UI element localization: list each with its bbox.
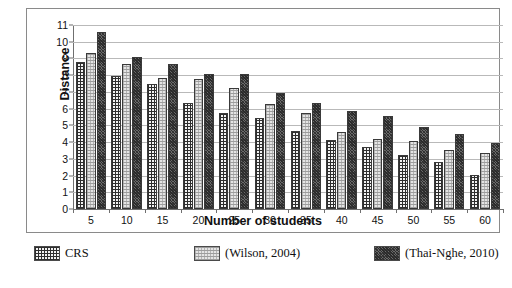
legend-item: (Wilson, 2004) xyxy=(194,246,300,261)
bar-group xyxy=(73,25,109,209)
y-tick-label: 0 xyxy=(62,204,68,215)
bar xyxy=(470,175,480,209)
bar xyxy=(255,118,265,209)
bar xyxy=(326,140,336,209)
x-tick-mark xyxy=(252,209,253,213)
y-tick-label: 4 xyxy=(62,137,68,148)
legend-item: (Thai-Nghe, 2010) xyxy=(374,246,499,261)
bar-group xyxy=(181,25,217,209)
bar xyxy=(419,127,429,209)
y-tick-label: 10 xyxy=(56,36,68,47)
bar-group xyxy=(396,25,432,209)
bar-group xyxy=(145,25,181,209)
bar xyxy=(76,62,86,209)
bar xyxy=(240,74,250,209)
bar-group xyxy=(288,25,324,209)
bar xyxy=(111,76,121,209)
bar xyxy=(86,53,96,209)
bar xyxy=(219,113,229,209)
bar xyxy=(291,131,301,209)
plot-area: 01234567891011 51015202530354045505560 xyxy=(73,25,503,209)
bar xyxy=(337,132,347,209)
legend-label: (Thai-Nghe, 2010) xyxy=(405,246,499,261)
bar-series-container xyxy=(73,25,503,209)
bar xyxy=(97,32,107,209)
y-tick-label: 8 xyxy=(62,70,68,81)
bar-group xyxy=(324,25,360,209)
y-tick-label: 1 xyxy=(62,187,68,198)
x-tick-mark xyxy=(396,209,397,213)
bar xyxy=(301,113,311,209)
bar xyxy=(491,143,501,209)
bar xyxy=(347,111,357,209)
bar xyxy=(122,64,132,209)
bar xyxy=(444,150,454,209)
bar-group xyxy=(431,25,467,209)
legend-swatch xyxy=(34,246,60,261)
x-tick-mark xyxy=(109,209,110,213)
legend-label: CRS xyxy=(65,246,89,261)
x-tick-mark xyxy=(431,209,432,213)
bar-group xyxy=(109,25,145,209)
bar-group xyxy=(360,25,396,209)
bar xyxy=(168,64,178,209)
x-tick-mark xyxy=(288,209,289,213)
x-tick-mark xyxy=(73,209,74,213)
legend-item: CRS xyxy=(34,246,89,261)
bar xyxy=(183,103,193,209)
y-tick-label: 7 xyxy=(62,87,68,98)
bar xyxy=(373,139,383,209)
bar-group xyxy=(467,25,503,209)
bar xyxy=(147,84,157,209)
bar xyxy=(276,93,286,209)
x-tick-mark xyxy=(324,209,325,213)
y-tick-label: 3 xyxy=(62,154,68,165)
y-tick-label: 2 xyxy=(62,170,68,181)
bar xyxy=(455,134,465,209)
x-tick-mark xyxy=(216,209,217,213)
y-tick-label: 11 xyxy=(57,20,68,31)
legend-swatch xyxy=(374,246,400,261)
bar xyxy=(229,88,239,209)
y-tick-label: 5 xyxy=(62,120,68,131)
bar xyxy=(362,147,372,209)
bar xyxy=(383,116,393,209)
x-tick-mark xyxy=(467,209,468,213)
bar xyxy=(265,104,275,209)
chart-legend: CRS(Wilson, 2004)(Thai-Nghe, 2010) xyxy=(26,246,500,278)
bar-group xyxy=(252,25,288,209)
bar xyxy=(204,74,214,209)
bar xyxy=(434,162,444,209)
x-tick-mark xyxy=(181,209,182,213)
x-tick-mark xyxy=(360,209,361,213)
x-tick-mark xyxy=(145,209,146,213)
bar xyxy=(398,155,408,209)
plot-frame: Distance 01234567891011 5101520253035404… xyxy=(26,8,500,233)
chart-figure: Distance 01234567891011 5101520253035404… xyxy=(0,0,512,288)
bar xyxy=(312,103,322,209)
bar xyxy=(480,153,490,209)
bar-group xyxy=(216,25,252,209)
x-axis-title: Number of students xyxy=(27,214,499,228)
bar xyxy=(409,141,419,209)
legend-label: (Wilson, 2004) xyxy=(225,246,300,261)
y-tick-label: 6 xyxy=(62,103,68,114)
bar xyxy=(132,57,142,209)
x-tick-mark xyxy=(503,209,504,213)
legend-swatch xyxy=(194,246,220,261)
y-tick-label: 9 xyxy=(62,53,68,64)
bar xyxy=(194,79,204,209)
bar xyxy=(158,78,168,209)
